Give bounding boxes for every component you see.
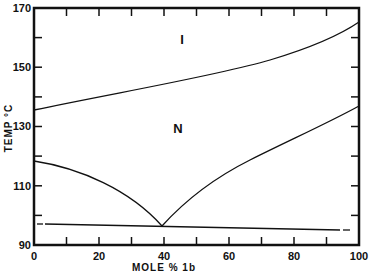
y-axis-title: TEMP °C	[3, 104, 14, 153]
y-tick-110: 110	[13, 180, 31, 192]
y-tick-130: 130	[13, 120, 31, 132]
y-tick-170: 170	[13, 2, 31, 14]
melting-curve-right	[162, 106, 359, 226]
y-tick-150: 150	[13, 61, 31, 73]
nematic-region-label: N	[173, 121, 182, 136]
isotropic-region-label: I	[180, 32, 184, 47]
y-tick-90: 90	[19, 239, 31, 251]
x-tick-20: 20	[93, 250, 105, 262]
x-tick-0: 0	[31, 250, 37, 262]
clearing-curve	[34, 22, 359, 110]
x-tick-80: 80	[288, 250, 300, 262]
x-tick-40: 40	[158, 250, 170, 262]
eutectic-line	[45, 224, 340, 230]
x-axis-title: MOLE % 1b	[132, 262, 196, 273]
phase-diagram-chart: 170 150 130 110 90 0 20 40 60 80 100 MOL…	[0, 0, 369, 273]
melting-curve-left	[34, 161, 162, 226]
plot-frame	[34, 8, 359, 245]
x-tick-100: 100	[350, 250, 368, 262]
x-axis-ticks	[67, 8, 327, 245]
x-tick-60: 60	[223, 250, 235, 262]
y-axis-ticks	[34, 38, 359, 216]
